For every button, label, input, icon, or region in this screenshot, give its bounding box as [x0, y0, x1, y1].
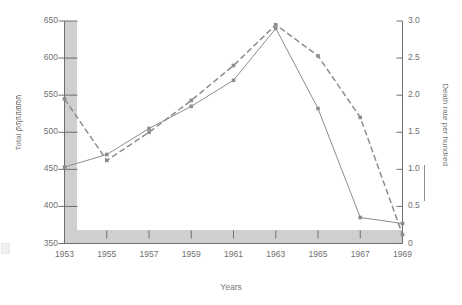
data-point [189, 99, 193, 103]
y-right-tick-1.0: 1.0 [408, 163, 442, 173]
x-tick-1959: 1959 [173, 249, 209, 259]
x-tick-1963: 1963 [258, 249, 294, 259]
y-left-tick-650: 650 [22, 15, 58, 25]
page-edge-mark [1, 243, 10, 254]
axis-spines [65, 21, 403, 244]
data-point [401, 233, 405, 237]
x-tick-1953: 1953 [47, 249, 83, 259]
plot-area [0, 0, 462, 305]
data-point [147, 130, 151, 134]
data-point [63, 165, 67, 169]
axis-band [64, 21, 402, 243]
y-right-tick-3.0: 3.0 [408, 15, 442, 25]
x-axis-title: Years [0, 282, 462, 292]
data-point [358, 116, 362, 120]
data-point [316, 107, 320, 111]
data-point [105, 153, 109, 157]
y-left-tick-400: 400 [22, 200, 58, 210]
data-point [274, 23, 278, 27]
x-tick-1969: 1969 [385, 249, 421, 259]
data-point [274, 27, 278, 31]
series-total-population [63, 23, 405, 237]
y-right-tick-1.5: 1.5 [408, 126, 442, 136]
x-tick-1955: 1955 [89, 249, 125, 259]
chart-figure: Total population Death rate per hundred … [0, 0, 462, 305]
axis-ticks [59, 21, 403, 244]
y-right-tick-2.0: 2.0 [408, 89, 442, 99]
y-left-tick-550: 550 [22, 89, 58, 99]
y-right-tick-0: 0 [408, 238, 442, 248]
x-tick-1967: 1967 [342, 249, 378, 259]
y-right-tick-0.5: 0.5 [408, 200, 442, 210]
y-left-tick-500: 500 [22, 126, 58, 136]
data-point [232, 79, 236, 83]
data-series-layer [63, 23, 405, 237]
x-tick-1957: 1957 [131, 249, 167, 259]
y-left-tick-350: 350 [22, 238, 58, 248]
data-point [63, 97, 67, 101]
data-point [401, 222, 405, 226]
y-left-tick-450: 450 [22, 163, 58, 173]
data-point [189, 105, 193, 109]
data-point [105, 159, 109, 163]
y-right-tick-2.5: 2.5 [408, 52, 442, 62]
data-point [232, 64, 236, 68]
data-point [358, 216, 362, 220]
x-tick-1965: 1965 [300, 249, 336, 259]
data-point [147, 127, 151, 131]
data-point [316, 54, 320, 58]
y-left-tick-600: 600 [22, 52, 58, 62]
series-death-rate [63, 27, 405, 226]
x-tick-1961: 1961 [216, 249, 252, 259]
